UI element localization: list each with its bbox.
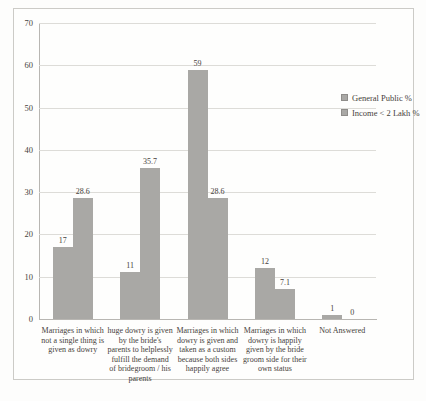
legend: General Public %Income < 2 Lakh % [341, 90, 420, 120]
y-axis-tick-label: 10 [9, 272, 33, 282]
legend-marker-icon [341, 109, 348, 116]
bar-value-label: 7.1 [263, 278, 307, 287]
bar-value-label: 12 [243, 257, 287, 266]
legend-marker-icon [341, 94, 348, 101]
gridline [39, 23, 376, 24]
bar-general-public [53, 247, 73, 319]
y-axis-tick-label: 60 [9, 60, 33, 70]
bar-income-lt-2-lakh [275, 289, 295, 319]
bar-general-public [120, 272, 140, 319]
y-axis-tick-label: 50 [9, 103, 33, 113]
bar-income-lt-2-lakh [208, 198, 228, 319]
gridline [39, 108, 376, 109]
x-axis-category-label: Not Answered [310, 326, 375, 336]
bar-value-label: 0 [330, 308, 374, 317]
bar-value-label: 28.6 [196, 187, 240, 196]
y-axis-tick-label: 30 [9, 187, 33, 197]
bar-value-label: 28.6 [61, 187, 105, 196]
x-axis-category-label: Marriages in which dowry is happily give… [242, 326, 307, 374]
bar-income-lt-2-lakh [140, 168, 160, 319]
legend-item: General Public % [341, 90, 420, 105]
y-axis-tick-label: 20 [9, 229, 33, 239]
legend-series-label: General Public % [352, 93, 412, 103]
legend-series-label: Income < 2 Lakh % [352, 108, 420, 118]
x-axis-category-label: Marriages in which dowry is given and ta… [175, 326, 240, 374]
bar-income-lt-2-lakh [73, 198, 93, 319]
y-axis-tick-label: 40 [9, 145, 33, 155]
gridline [39, 150, 376, 151]
bar-value-label: 59 [176, 59, 220, 68]
legend-item: Income < 2 Lakh % [341, 105, 420, 120]
y-axis-tick-label: 0 [9, 314, 33, 324]
bar-value-label: 35.7 [128, 157, 172, 166]
bar-chart-figure: 01020304050607017115912128.635.728.67.10… [0, 0, 426, 401]
bar-general-public [255, 268, 275, 319]
y-axis-tick-label: 70 [9, 18, 33, 28]
x-axis-category-label: huge dowry is given by the bride's paren… [107, 326, 172, 384]
x-axis-category-label: Marriages in which not a single thing is… [40, 326, 105, 355]
